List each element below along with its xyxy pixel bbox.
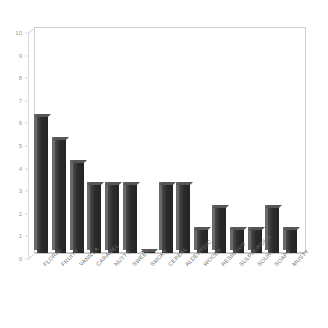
y-axis-tick-mark bbox=[25, 259, 28, 260]
bar[interactable] bbox=[52, 140, 70, 253]
x-axis-labels: FLORALFRUITYVANILLACARAMELNUTTYSWEETSMOK… bbox=[34, 259, 306, 325]
bar[interactable] bbox=[34, 117, 52, 253]
y-axis-tick-mark bbox=[25, 213, 28, 214]
bar-top-face bbox=[212, 205, 229, 208]
y-axis-tick-mark bbox=[25, 78, 28, 79]
bar-front-face bbox=[73, 163, 84, 253]
bar-front-face bbox=[179, 185, 190, 253]
bar-front-face bbox=[268, 208, 279, 253]
bar-top-face bbox=[123, 182, 140, 185]
bar-column bbox=[70, 163, 88, 253]
y-axis-tick-mark bbox=[25, 146, 28, 147]
bar[interactable] bbox=[265, 208, 283, 253]
bar-top-face bbox=[52, 137, 69, 140]
bar[interactable] bbox=[87, 185, 105, 253]
y-axis-tick-label: 0 bbox=[19, 256, 22, 262]
bar-top-face bbox=[70, 160, 87, 163]
bar-top-face bbox=[265, 205, 282, 208]
bar-column bbox=[87, 185, 105, 253]
bar-column bbox=[34, 117, 52, 253]
y-axis-tick-mark bbox=[25, 191, 28, 192]
bar[interactable] bbox=[123, 185, 141, 253]
y-axis-tick-label: 3 bbox=[19, 188, 22, 194]
y-axis-tick-mark bbox=[25, 33, 28, 34]
bar-top-face bbox=[283, 227, 300, 230]
y-axis-tick-label: 8 bbox=[19, 75, 22, 81]
y-axis-tick-mark bbox=[25, 236, 28, 237]
bar[interactable] bbox=[70, 163, 88, 253]
bar-front-face bbox=[55, 140, 66, 253]
bar-top-face bbox=[34, 114, 51, 117]
bar-front-face bbox=[162, 185, 173, 253]
y-axis-tick-mark bbox=[25, 55, 28, 56]
y-axis-tick-label: 4 bbox=[19, 166, 22, 172]
y-axis-tick-mark bbox=[25, 123, 28, 124]
bar-top-face bbox=[176, 182, 193, 185]
y-axis-tick-label: 5 bbox=[19, 143, 22, 149]
bar-top-face bbox=[105, 182, 122, 185]
bar-column bbox=[159, 185, 177, 253]
bar-column bbox=[52, 140, 70, 253]
bar-top-face bbox=[248, 227, 265, 230]
y-axis-tick-label: 10 bbox=[15, 30, 22, 36]
bar-column bbox=[265, 208, 283, 253]
y-axis-tick-mark bbox=[25, 100, 28, 101]
y-axis-tick-label: 2 bbox=[19, 211, 22, 217]
bar-front-face bbox=[126, 185, 137, 253]
bar-front-face bbox=[215, 208, 226, 253]
bar-top-face bbox=[230, 227, 247, 230]
bar-front-face bbox=[90, 185, 101, 253]
bar-column bbox=[123, 185, 141, 253]
bar-top-face bbox=[159, 182, 176, 185]
bar-top-face bbox=[194, 227, 211, 230]
bar[interactable] bbox=[212, 208, 230, 253]
bar-front-face bbox=[37, 117, 48, 253]
bar[interactable] bbox=[176, 185, 194, 253]
bar-top-face bbox=[87, 182, 104, 185]
bar-column bbox=[212, 208, 230, 253]
y-axis-tick-label: 1 bbox=[19, 233, 22, 239]
y-axis: 109876543210 bbox=[0, 27, 28, 259]
plot-depth-left-edge bbox=[28, 33, 29, 259]
y-axis-tick-label: 7 bbox=[19, 98, 22, 104]
bar-column bbox=[176, 185, 194, 253]
bar[interactable] bbox=[159, 185, 177, 253]
bars-layer bbox=[34, 27, 306, 259]
y-axis-tick-label: 9 bbox=[19, 53, 22, 59]
y-axis-tick-label: 6 bbox=[19, 120, 22, 126]
bar-chart: 109876543210 FLORALFRUITYVANILLACARAMELN… bbox=[0, 0, 328, 328]
y-axis-tick-mark bbox=[25, 168, 28, 169]
